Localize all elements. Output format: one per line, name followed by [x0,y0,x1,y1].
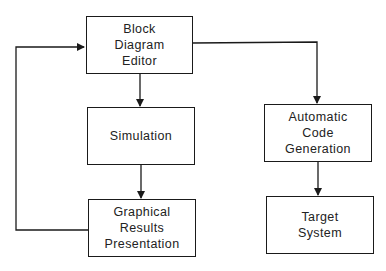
block-label-line: Graphical [113,204,170,220]
arrow-feedback-to-editor [16,47,88,230]
block-label-line: Automatic [288,109,347,125]
block-label-line: Simulation [110,128,172,144]
block-diagram-editor-block: Block Diagram Editor [86,16,193,74]
block-label-line: Generation [285,141,351,157]
automatic-code-generation-block: Automatic Code Generation [264,104,372,162]
block-label-line: Results [120,220,164,236]
arrow-editor-to-codegen [192,42,317,103]
graphical-results-presentation-block: Graphical Results Presentation [88,199,196,257]
block-label-line: Diagram [114,37,164,53]
block-label-line: Target [301,209,338,225]
simulation-block: Simulation [87,107,195,165]
block-label-line: System [298,225,342,241]
block-label-line: Presentation [105,236,180,252]
block-label-line: Block [123,21,156,37]
target-system-block: Target System [266,196,374,254]
block-label-line: Code [302,125,333,141]
block-label-line: Editor [122,53,157,69]
